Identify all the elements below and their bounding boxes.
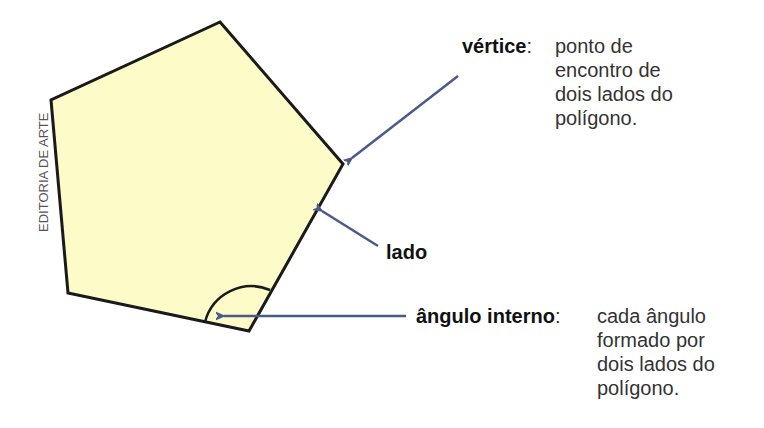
vertex-definition: ponto de encontro de dois lados do políg…	[555, 34, 673, 130]
angle-term: ângulo interno	[416, 305, 555, 327]
credit-text: EDITORIA DE ARTE	[36, 113, 51, 232]
side-label: lado	[386, 240, 427, 264]
angle-definition: cada ângulo formado por dois lados do po…	[597, 304, 715, 400]
side-arrow	[322, 211, 378, 246]
angle-label: ângulo interno:	[416, 304, 560, 328]
vertex-label: vértice:	[462, 34, 532, 58]
vertex-arrow	[352, 76, 458, 158]
pentagon-diagram: EDITORIA DE ARTE vértice: ponto de encon…	[0, 0, 764, 428]
pentagon-shape	[51, 22, 343, 331]
vertex-term: vértice	[462, 35, 527, 57]
